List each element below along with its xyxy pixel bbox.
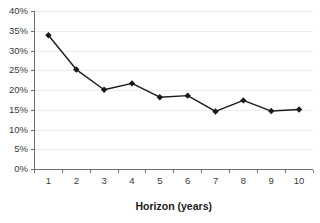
- data-point-marker: [129, 80, 135, 86]
- y-tick-label: 10%: [9, 124, 29, 135]
- data-point-marker: [212, 108, 218, 114]
- x-tick-label: 9: [269, 175, 274, 186]
- y-tick-label: 5%: [14, 143, 28, 154]
- x-tick-label: 8: [241, 175, 246, 186]
- y-tickmarks: [31, 12, 35, 170]
- chart-container: 0%5%10%15%20%25%30%35%40% 12345678910 Ho…: [0, 0, 320, 223]
- data-point-marker: [184, 92, 190, 98]
- data-point-marker: [296, 106, 302, 112]
- gridlines-group: [35, 12, 314, 170]
- x-tick-label: 10: [294, 175, 305, 186]
- y-tick-label: 15%: [9, 104, 29, 115]
- y-tick-label: 35%: [9, 25, 29, 36]
- series-markers: [45, 32, 302, 115]
- x-tick-label: 6: [185, 175, 190, 186]
- x-tick-label: 1: [46, 175, 51, 186]
- data-point-marker: [157, 94, 163, 100]
- x-axis-title: Horizon (years): [136, 200, 212, 212]
- series-line: [48, 35, 299, 111]
- x-tick-label: 2: [74, 175, 79, 186]
- y-tick-labels: 0%5%10%15%20%25%30%35%40%: [9, 5, 29, 174]
- x-tick-labels: 12345678910: [46, 175, 305, 186]
- y-axis-group: 0%5%10%15%20%25%30%35%40%: [9, 5, 35, 174]
- data-point-marker: [268, 108, 274, 114]
- x-tick-label: 3: [101, 175, 106, 186]
- x-tick-label: 5: [157, 175, 162, 186]
- y-tick-label: 25%: [9, 64, 29, 75]
- y-tick-label: 40%: [9, 5, 29, 16]
- x-tickmarks: [35, 170, 314, 174]
- data-series-group: [45, 32, 302, 115]
- x-tick-label: 7: [213, 175, 218, 186]
- y-tick-label: 30%: [9, 45, 29, 56]
- x-tick-label: 4: [129, 175, 134, 186]
- y-tick-label: 20%: [9, 84, 29, 95]
- data-point-marker: [240, 97, 246, 103]
- line-chart: 0%5%10%15%20%25%30%35%40% 12345678910 Ho…: [0, 0, 320, 223]
- y-tick-label: 0%: [14, 163, 28, 174]
- x-axis-group: 12345678910: [35, 170, 314, 186]
